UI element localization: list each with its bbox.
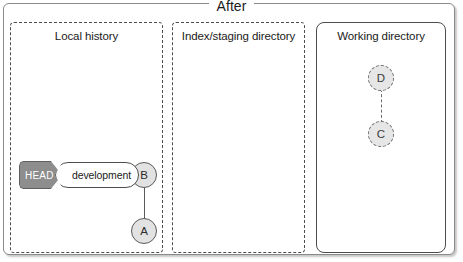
diagram-canvas: After Local history Index/staging direct… (0, 0, 463, 262)
branch-label-development-text: development (72, 169, 131, 181)
edge-d-to-c (381, 89, 382, 123)
commit-node-a: A (131, 218, 157, 244)
branch-label-development: development (55, 162, 139, 188)
commit-node-a-label: A (140, 225, 148, 237)
panel-working-directory-title: Working directory (317, 30, 445, 42)
file-node-c-label: C (377, 128, 385, 140)
file-node-c: C (368, 121, 394, 147)
diagram-title-text: After (209, 0, 253, 14)
panel-index-staging-directory-title: Index/staging directory (173, 30, 304, 42)
file-node-d-label: D (377, 72, 385, 84)
panel-local-history-title: Local history (11, 30, 162, 42)
head-pointer-label: HEAD (25, 170, 54, 181)
edge-b-to-a (144, 186, 145, 220)
panel-index-staging-directory: Index/staging directory (172, 22, 305, 253)
file-node-d: D (368, 65, 394, 91)
commit-node-b-label: B (140, 169, 148, 181)
diagram-title: After (0, 0, 463, 14)
